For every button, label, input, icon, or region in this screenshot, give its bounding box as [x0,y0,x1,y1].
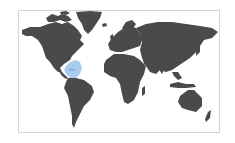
region-south-america[interactable] [64,78,94,128]
region-southeast-asia [172,72,182,80]
region-africa[interactable] [104,54,146,104]
region-madagascar [142,86,145,96]
region-australia[interactable] [178,90,202,112]
world-map [0,0,235,143]
region-arctic-islands [46,14,72,22]
region-greenland[interactable] [76,11,102,34]
region-japan [196,44,200,56]
region-iceland [102,23,107,27]
region-new-zealand [205,110,211,122]
region-indonesia [170,82,196,88]
